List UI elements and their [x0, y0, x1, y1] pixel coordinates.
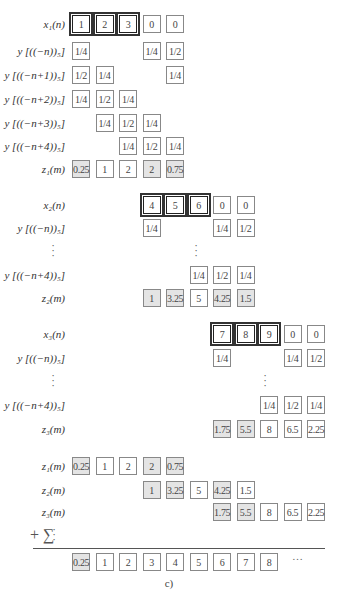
row-label: z₁(m): [42, 160, 65, 179]
row-label: y [((−n))₅]: [17, 349, 65, 368]
value-cell: 3: [143, 553, 161, 571]
input-sample-cell: 9: [260, 325, 278, 343]
value-cell: 1/4: [72, 90, 90, 108]
row-label: y [((−n+3))₅]: [4, 114, 65, 133]
value-cell: 2: [119, 553, 137, 571]
aliased-output-cell: 0.75: [166, 160, 184, 178]
value-cell: 1/4: [284, 349, 302, 367]
value-cell: 1: [96, 160, 114, 178]
row-label: y [((−n))₅]: [17, 219, 65, 238]
row-label: y [((−n+2))₅]: [4, 90, 65, 109]
figure-caption: c): [0, 577, 338, 589]
value-cell: 1/2: [143, 137, 161, 155]
value-cell: 0: [166, 15, 184, 33]
vertical-ellipsis: ···: [193, 243, 199, 258]
value-cell: 0: [284, 325, 302, 343]
row-label: x₂(n): [43, 196, 65, 215]
value-cell: 1/4: [213, 349, 231, 367]
input-sample-cell: 7: [213, 325, 231, 343]
value-cell: 8: [260, 553, 278, 571]
aliased-output-cell: 4.25: [213, 481, 231, 499]
input-sample-cell: 8: [237, 325, 255, 343]
value-cell: 1/2: [72, 66, 90, 84]
aliased-output-cell: 1.5: [237, 289, 255, 307]
value-cell: 5: [190, 481, 208, 499]
vertical-ellipsis: ···: [262, 373, 268, 388]
value-cell: 1/4: [143, 42, 161, 60]
value-cell: 1/2: [237, 219, 255, 237]
aliased-output-cell: 1.75: [213, 503, 231, 521]
value-cell: 4: [166, 553, 184, 571]
row-label: x₁(n): [43, 15, 65, 34]
value-cell: 1/4: [96, 66, 114, 84]
aliased-output-cell: 5.5: [237, 503, 255, 521]
value-cell: 1/2: [284, 396, 302, 414]
value-cell: 1/4: [166, 66, 184, 84]
input-sample-cell: 2: [96, 15, 114, 33]
row-label: y [((−n+4))₅]: [4, 396, 65, 415]
value-cell: 5: [190, 553, 208, 571]
aliased-output-cell: 0.75: [166, 457, 184, 475]
row-label: y [((−n+4))₅]: [4, 137, 65, 156]
aliased-output-cell: 3.25: [166, 481, 184, 499]
value-cell: 7: [237, 553, 255, 571]
value-cell: 1.5: [237, 481, 255, 499]
input-sample-cell: 3: [119, 15, 137, 33]
value-cell: 1/4: [143, 219, 161, 237]
aliased-output-cell: 2: [143, 457, 161, 475]
value-cell: 5: [190, 289, 208, 307]
input-sample-cell: 6: [190, 196, 208, 214]
row-label: z₂(m): [42, 481, 65, 500]
value-cell: 1/2: [213, 266, 231, 284]
aliased-output-cell: 0.25: [72, 457, 90, 475]
value-cell: 6.5: [284, 503, 302, 521]
value-cell: 1/4: [190, 266, 208, 284]
value-cell: 1/4: [307, 396, 325, 414]
vertical-ellipsis: ···: [50, 373, 56, 388]
aliased-output-cell: 2: [143, 160, 161, 178]
value-cell: 1/4: [260, 396, 278, 414]
row-label: y [((−n))₅]: [17, 42, 65, 61]
value-cell: 1/2: [307, 349, 325, 367]
value-cell: 0: [307, 325, 325, 343]
value-cell: 8: [260, 503, 278, 521]
value-cell: 8: [260, 420, 278, 438]
aliased-output-cell: 0.25: [72, 553, 90, 571]
row-label: z₃(m): [42, 420, 65, 439]
ellipsis: …: [292, 550, 303, 562]
value-cell: 1: [96, 553, 114, 571]
aliased-output-cell: 4.25: [213, 289, 231, 307]
value-cell: 1/4: [119, 137, 137, 155]
value-cell: 1/2: [96, 90, 114, 108]
value-cell: 2.25: [307, 420, 325, 438]
aliased-output-cell: 0.25: [72, 160, 90, 178]
aliased-output-cell: 3.25: [166, 289, 184, 307]
row-label: y [((−n+4))₅]: [4, 266, 65, 285]
value-cell: 1/4: [119, 90, 137, 108]
value-cell: 1/4: [96, 114, 114, 132]
row-label: z₁(m): [42, 457, 65, 476]
input-sample-cell: 1: [72, 15, 90, 33]
value-cell: 1/4: [72, 42, 90, 60]
input-sample-cell: 4: [143, 196, 161, 214]
plus-sigma-symbol: + ∑: [30, 526, 54, 544]
value-cell: 0: [213, 196, 231, 214]
vertical-ellipsis: ···: [50, 243, 56, 258]
sum-rule: [33, 548, 325, 549]
value-cell: 2: [119, 160, 137, 178]
aliased-output-cell: 1: [143, 481, 161, 499]
row-label: x₃(n): [43, 325, 65, 344]
input-sample-cell: 5: [166, 196, 184, 214]
row-label: z₃(m): [42, 503, 65, 522]
value-cell: 1/4: [213, 219, 231, 237]
aliased-output-cell: 1: [143, 289, 161, 307]
row-label: y [((−n+1))₅]: [4, 66, 65, 85]
value-cell: 6: [213, 553, 231, 571]
value-cell: 1/4: [237, 266, 255, 284]
value-cell: 0: [143, 15, 161, 33]
value-cell: 1: [96, 457, 114, 475]
value-cell: 2.25: [307, 503, 325, 521]
aliased-output-cell: 1.75: [213, 420, 231, 438]
value-cell: 0: [237, 196, 255, 214]
value-cell: 1/4: [143, 114, 161, 132]
